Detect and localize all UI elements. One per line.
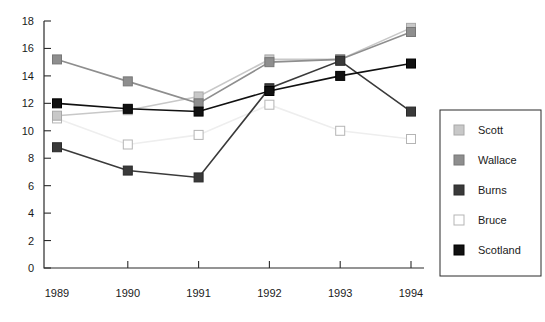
data-point-marker bbox=[53, 99, 62, 108]
y-axis-ticks: 024681012141618 bbox=[22, 15, 51, 274]
data-point-marker bbox=[336, 126, 345, 135]
x-tick-label: 1992 bbox=[257, 287, 281, 299]
y-tick-label: 8 bbox=[28, 152, 34, 164]
legend-item-wallace[interactable]: Wallace bbox=[454, 154, 517, 166]
x-tick-label: 1991 bbox=[186, 287, 210, 299]
series-wallace bbox=[53, 27, 416, 107]
legend-label: Burns bbox=[478, 184, 507, 196]
x-tick-label: 1993 bbox=[328, 287, 352, 299]
data-point-marker bbox=[194, 173, 203, 182]
data-point-marker bbox=[407, 27, 416, 36]
legend-swatch-icon bbox=[454, 185, 464, 195]
y-tick-label: 12 bbox=[22, 97, 34, 109]
data-point-marker bbox=[265, 58, 274, 67]
data-point-marker bbox=[336, 56, 345, 65]
data-point-marker bbox=[194, 99, 203, 108]
y-tick-label: 16 bbox=[22, 42, 34, 54]
data-point-marker bbox=[407, 135, 416, 144]
legend-swatch-icon bbox=[454, 215, 464, 225]
y-tick-label: 0 bbox=[28, 262, 34, 274]
axis-lines bbox=[44, 21, 424, 268]
legend-item-scott[interactable]: Scott bbox=[454, 124, 503, 136]
y-tick-label: 18 bbox=[22, 15, 34, 27]
x-axis-ticks: 198919901991199219931994 bbox=[45, 261, 423, 299]
data-point-marker bbox=[53, 143, 62, 152]
data-point-marker bbox=[265, 86, 274, 95]
data-point-marker bbox=[407, 59, 416, 68]
data-point-marker bbox=[407, 107, 416, 116]
data-point-marker bbox=[194, 107, 203, 116]
legend-item-burns[interactable]: Burns bbox=[454, 184, 507, 196]
data-point-marker bbox=[53, 55, 62, 64]
chart-canvas: 024681012141618 198919901991199219931994… bbox=[0, 0, 545, 322]
legend-label: Wallace bbox=[478, 154, 517, 166]
legend-label: Bruce bbox=[478, 214, 507, 226]
series-scotland bbox=[53, 59, 416, 116]
data-point-marker bbox=[53, 111, 62, 120]
data-point-marker bbox=[123, 140, 132, 149]
legend-swatch-icon bbox=[454, 125, 464, 135]
line-chart: 024681012141618 198919901991199219931994… bbox=[0, 0, 545, 322]
y-tick-label: 4 bbox=[28, 207, 34, 219]
data-point-marker bbox=[123, 77, 132, 86]
x-tick-label: 1989 bbox=[45, 287, 69, 299]
legend-swatch-icon bbox=[454, 155, 464, 165]
x-tick-label: 1994 bbox=[399, 287, 423, 299]
data-point-marker bbox=[194, 130, 203, 139]
y-tick-label: 14 bbox=[22, 70, 34, 82]
y-tick-label: 6 bbox=[28, 180, 34, 192]
data-point-marker bbox=[336, 71, 345, 80]
y-tick-label: 10 bbox=[22, 125, 34, 137]
chart-legend: ScottWallaceBurnsBruceScotland bbox=[440, 110, 541, 276]
series-container bbox=[53, 23, 416, 182]
data-point-marker bbox=[265, 100, 274, 109]
legend-item-scotland[interactable]: Scotland bbox=[454, 244, 521, 256]
legend-swatch-icon bbox=[454, 245, 464, 255]
legend-item-bruce[interactable]: Bruce bbox=[454, 214, 507, 226]
data-point-marker bbox=[123, 104, 132, 113]
legend-label: Scott bbox=[478, 124, 503, 136]
data-point-marker bbox=[123, 166, 132, 175]
x-tick-label: 1990 bbox=[116, 287, 140, 299]
legend-label: Scotland bbox=[478, 244, 521, 256]
y-tick-label: 2 bbox=[28, 235, 34, 247]
